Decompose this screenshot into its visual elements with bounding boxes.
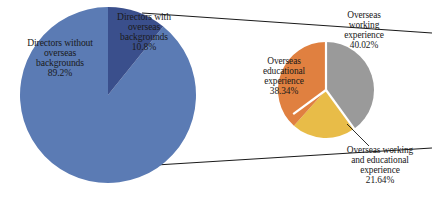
label-overseas-educational-experience: Overseas educational experience 38.34% <box>247 57 321 97</box>
label-overseas-working-and-educational: Overseas working and educational experie… <box>330 146 430 186</box>
pie-of-pie-chart: Directors without overseas backgrounds 8… <box>0 0 432 201</box>
label-directors-with-overseas: Directors with overseas backgrounds 10.8… <box>104 12 184 53</box>
label-overseas-working-experience: Overseas working experience 40.02% <box>324 11 404 51</box>
label-directors-without-overseas: Directors without overseas backgrounds 8… <box>6 38 114 79</box>
leader-line-overseas-both <box>347 124 369 146</box>
